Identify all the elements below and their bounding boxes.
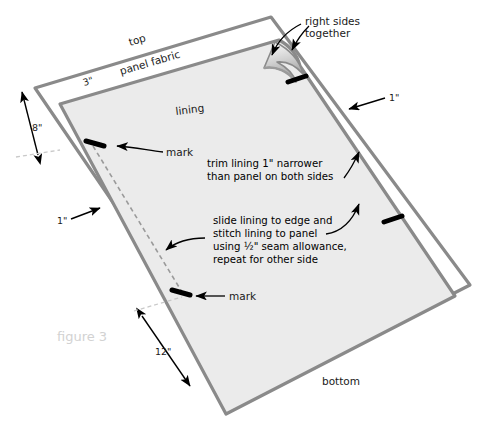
dimension-right-1in-group: 1" — [349, 92, 399, 109]
dimension-left-1in-arrow — [71, 208, 100, 219]
trim-lining-line2: than panel on both sides — [207, 171, 333, 182]
dimension-right-1in-label: 1" — [389, 92, 399, 103]
figure-caption: figure 3 — [57, 329, 107, 344]
sewing-diagram-svg: right sides together top panel fabric li… — [0, 0, 483, 423]
right-sides-together-label-line2: together — [305, 27, 351, 39]
slide-lining-line1: slide lining to edge and — [213, 215, 332, 226]
trim-lining-line1: trim lining 1" narrower — [207, 158, 323, 169]
mark-lower-label: mark — [229, 290, 257, 302]
dimension-right-1in-arrow — [349, 98, 385, 109]
dimension-12in-label: 12" — [155, 346, 171, 357]
slide-lining-line3: using ½" seam allowance, — [213, 241, 347, 252]
dimension-left-1in-label: 1" — [57, 215, 67, 226]
dimension-8in-extension — [16, 150, 60, 157]
bottom-edge-label: bottom — [322, 375, 360, 387]
top-edge-label: top — [127, 31, 147, 47]
slide-lining-line2: stitch lining to panel — [213, 228, 317, 239]
dimension-left-1in-group: 1" — [57, 208, 100, 226]
figure-canvas: right sides together top panel fabric li… — [0, 0, 483, 423]
slide-lining-line4: repeat for other side — [213, 254, 318, 265]
mark-upper-label: mark — [166, 146, 194, 158]
right-sides-together-label-line1: right sides — [305, 15, 360, 27]
dimension-8in-label: 8" — [32, 122, 42, 133]
